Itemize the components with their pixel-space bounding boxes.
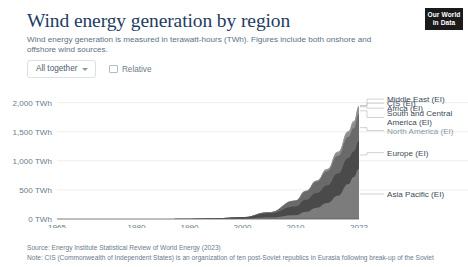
y-tick-label: 1,500 TWh [13,128,52,137]
x-tick-label: 2000 [233,223,252,228]
x-tick-label: 2010 [286,223,305,228]
legend-item-label[interactable]: Europe (EI) [387,149,429,158]
x-axis-tick-labels: 196519801990200020102022 [48,223,369,228]
chart-subtitle: Wind energy generation is measured in te… [27,35,379,56]
source-note: Source: Energy Institute Statistical Rev… [27,243,459,253]
stacking-mode-label: All together [36,64,77,73]
legend-item-label[interactable]: Asia Pacific (EI) [387,190,444,199]
page-title: Wind energy generation by region [27,10,397,32]
x-tick-label: 1990 [180,223,199,228]
legend-leader-line [360,107,384,108]
x-tick-label: 2022 [350,223,369,228]
owid-chart-screenshot: Wind energy generation by region Wind en… [0,0,468,267]
chevron-down-icon [82,68,88,71]
logo-line-1: Our World [425,11,463,19]
area-series-group[interactable] [57,106,359,219]
legend-leader-lines [360,99,384,194]
stacked-area-chart[interactable]: 0 TWh500 TWh1,000 TWh1,500 TWh2,000 TWh … [0,78,468,228]
chart-plot-area: 0 TWh500 TWh1,000 TWh1,500 TWh2,000 TWh … [0,78,468,228]
y-tick-label: 2,000 TWh [13,99,52,108]
legend-leader-line [360,111,384,118]
y-tick-label: 500 TWh [19,186,52,195]
our-world-in-data-logo[interactable]: Our World in Data [425,8,463,30]
legend-item-label[interactable]: South and Central [387,109,452,118]
legend-leader-line [360,153,384,155]
series-legend[interactable]: Middle East (EI)CIS (EI)Africa (EI)South… [387,95,454,199]
x-tick-label: 1965 [48,223,67,228]
x-tick-label: 1980 [127,223,146,228]
logo-line-2: in Data [425,19,463,27]
legend-leader-line [360,128,384,131]
definition-note: Note: CIS (Commonwealth of Independent S… [27,253,459,263]
checkbox-icon [109,65,118,74]
chart-controls: All together Relative [27,60,152,78]
y-tick-label: 1,000 TWh [13,157,52,166]
chart-header: Wind energy generation by region Wind en… [27,10,397,56]
relative-checkbox[interactable]: Relative [109,65,151,74]
legend-item-label[interactable]: North America (EI) [387,127,454,136]
chart-footer: Source: Energy Institute Statistical Rev… [27,243,459,262]
y-axis-tick-labels: 0 TWh500 TWh1,000 TWh1,500 TWh2,000 TWh [13,99,52,224]
stacking-mode-dropdown[interactable]: All together [27,60,96,78]
relative-label: Relative [122,65,152,74]
area-series[interactable] [57,141,359,219]
